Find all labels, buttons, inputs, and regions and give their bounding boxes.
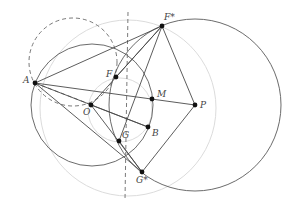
- dashed-line-1: [125, 12, 128, 200]
- geometry-diagram: AF*FMPOBGG*: [0, 0, 292, 213]
- points-layer: AF*FMPOBGG*: [22, 12, 207, 185]
- light-circle-small: [88, 78, 152, 142]
- point-g: [117, 139, 122, 144]
- segment-G-Gstar: [119, 141, 142, 172]
- point-a: [33, 81, 38, 86]
- label-f: F: [105, 69, 113, 79]
- label-b: B: [151, 128, 159, 138]
- segment-F-Fstar: [116, 26, 162, 77]
- segment-P-Gstar: [142, 105, 195, 172]
- label-g: G: [122, 130, 129, 140]
- label-g-star: G*: [136, 175, 148, 185]
- label-a: A: [22, 75, 30, 85]
- segment-A-Fstar: [35, 26, 162, 83]
- light-circle-large: [40, 20, 216, 196]
- point-m: [150, 97, 155, 102]
- segments-layer: [35, 12, 195, 200]
- segment-Fstar-P: [162, 26, 195, 105]
- point-p: [193, 103, 198, 108]
- label-f-star: F*: [163, 12, 175, 22]
- label-p: P: [199, 100, 207, 110]
- point-f-star: [160, 24, 165, 29]
- segment-A-P: [35, 83, 195, 105]
- point-g-star: [140, 170, 145, 175]
- label-o: O: [83, 107, 91, 117]
- point-b: [146, 125, 151, 130]
- point-f: [114, 75, 119, 80]
- label-m: M: [156, 89, 167, 99]
